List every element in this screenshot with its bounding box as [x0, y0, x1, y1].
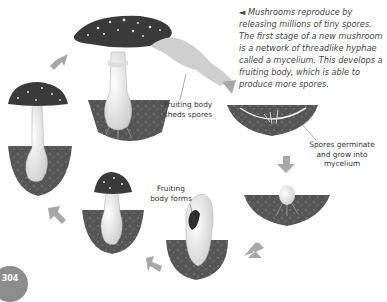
spore-cloud [150, 37, 232, 86]
arrow-down [277, 156, 295, 173]
arrow-spores [222, 80, 236, 94]
caption: ◄ Mushrooms reproduce by releasing milli… [239, 6, 387, 90]
fruiting-body-stage [166, 194, 228, 280]
young-mushroom [82, 172, 144, 254]
caption-text: Mushrooms reproduce by releasing million… [239, 7, 383, 89]
label-sheds-spores: Fruiting body sheds spores [160, 100, 216, 119]
label-fruiting-body-forms: Fruiting body forms [148, 184, 194, 203]
mycelium-soil [227, 105, 318, 140]
tall-mushroom [8, 82, 72, 196]
arrow-up-left-lower [48, 206, 66, 224]
arrow-left-bottom [146, 256, 162, 272]
arrow-up-right-top [50, 54, 68, 70]
page-number-text: 304 [2, 274, 19, 283]
button-stage [244, 185, 330, 226]
mature-mushroom [74, 16, 172, 141]
label-germinate: Spores germinate and grow into mycelium [306, 140, 378, 169]
caption-marker: ◄ [239, 7, 245, 17]
